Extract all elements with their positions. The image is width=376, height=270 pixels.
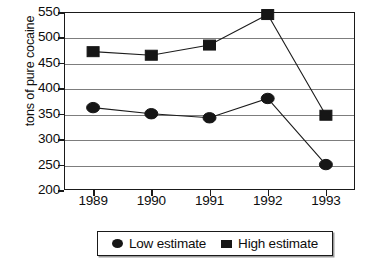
legend-label: High estimate <box>238 237 318 251</box>
data-point-circle <box>261 93 274 103</box>
line-chart-figure: tons of pure cocaine 5505004504003503002… <box>0 0 376 270</box>
x-axis-tick-mark <box>151 190 153 196</box>
y-axis-tick-mark <box>58 37 64 39</box>
chart-data-layer <box>64 12 355 190</box>
y-axis-tick-label: 250 <box>22 158 60 171</box>
y-axis-tick-mark <box>58 12 64 14</box>
x-axis-tick-label-group: 19891990199119921993 <box>64 193 355 213</box>
data-point-circle <box>203 113 216 123</box>
y-axis-tick-label: 500 <box>22 30 60 43</box>
y-axis-tick-mark <box>58 190 64 192</box>
y-axis-tick-mark <box>58 88 64 90</box>
x-axis-tick-mark <box>210 190 212 196</box>
x-axis-tick-mark <box>326 190 328 196</box>
circle-marker-icon <box>112 239 123 248</box>
data-point-square <box>145 50 157 60</box>
y-axis-tick-label: 300 <box>22 132 60 145</box>
y-axis-tick-label: 200 <box>22 183 60 196</box>
series-line-square <box>93 15 326 116</box>
y-axis-tick-mark <box>58 165 64 167</box>
data-point-square <box>320 110 332 120</box>
y-axis-tick-mark <box>58 139 64 141</box>
data-point-circle <box>319 159 332 169</box>
legend-label: Low estimate <box>129 237 206 251</box>
data-point-square <box>204 40 216 50</box>
legend-entry: Low estimate <box>112 237 206 251</box>
legend-entry: High estimate <box>221 237 318 251</box>
y-axis-tick-label: 450 <box>22 56 60 69</box>
y-axis-tick-mark <box>58 63 64 65</box>
x-axis-tick-mark <box>93 190 95 196</box>
x-axis-tick-mark <box>268 190 270 196</box>
data-point-circle <box>87 102 100 112</box>
y-axis-tick-mark <box>58 114 64 116</box>
data-point-square <box>262 10 274 20</box>
y-axis-tick-label-group: 550500450400350300250200 <box>22 0 60 200</box>
square-marker-icon <box>221 240 232 248</box>
data-point-circle <box>145 109 158 119</box>
y-axis-tick-label: 400 <box>22 81 60 94</box>
y-axis-tick-label: 350 <box>22 107 60 120</box>
chart-legend: Low estimateHigh estimate <box>97 231 333 256</box>
y-axis-tick-label: 550 <box>22 5 60 18</box>
data-point-square <box>87 47 99 57</box>
series-line-circle <box>93 98 326 164</box>
